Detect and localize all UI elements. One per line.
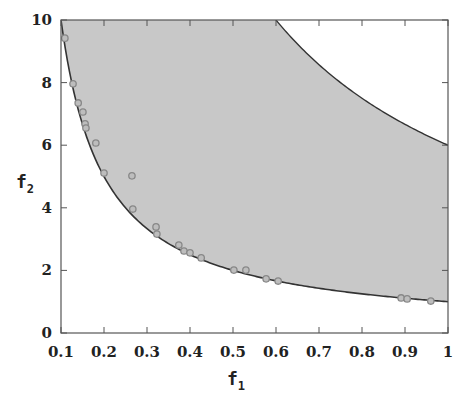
data-point bbox=[275, 278, 281, 284]
y-tick-label: 6 bbox=[42, 136, 52, 154]
x-tick-label: 0.9 bbox=[392, 343, 418, 361]
x-tick-label: 0.4 bbox=[177, 343, 203, 361]
data-point bbox=[75, 100, 81, 106]
x-tick-labels: 0.10.20.30.40.50.60.70.80.91 bbox=[48, 343, 453, 361]
plot-area bbox=[61, 20, 448, 304]
x-tick-label: 1 bbox=[443, 343, 453, 361]
data-point bbox=[176, 242, 182, 248]
data-point bbox=[398, 295, 404, 301]
pareto-chart: 0.10.20.30.40.50.60.70.80.91 0246810 f1 … bbox=[0, 0, 474, 412]
x-tick-label: 0.2 bbox=[91, 343, 117, 361]
y-tick-label: 0 bbox=[42, 324, 52, 342]
data-point bbox=[231, 267, 237, 273]
data-point bbox=[101, 170, 107, 176]
data-point bbox=[263, 276, 269, 282]
y-tick-label: 10 bbox=[31, 11, 52, 29]
data-point bbox=[198, 255, 204, 261]
y-tick-labels: 0246810 bbox=[31, 11, 52, 342]
y-tick-label: 8 bbox=[42, 74, 52, 92]
data-point bbox=[404, 296, 410, 302]
data-point bbox=[70, 81, 76, 87]
x-axis-label: f1 bbox=[227, 368, 245, 393]
data-point bbox=[130, 206, 136, 212]
data-point bbox=[243, 267, 249, 273]
x-tick-label: 0.8 bbox=[349, 343, 375, 361]
x-tick-label: 0.6 bbox=[263, 343, 289, 361]
data-point bbox=[129, 173, 135, 179]
x-tick-label: 0.3 bbox=[134, 343, 160, 361]
x-tick-label: 0.7 bbox=[306, 343, 332, 361]
data-point bbox=[62, 35, 68, 41]
y-tick-label: 4 bbox=[42, 199, 52, 217]
x-tick-label: 0.5 bbox=[220, 343, 246, 361]
data-point bbox=[153, 224, 159, 230]
data-point bbox=[83, 125, 89, 131]
y-tick-label: 2 bbox=[42, 261, 52, 279]
data-point bbox=[80, 109, 86, 115]
data-point bbox=[154, 231, 160, 237]
data-point bbox=[428, 298, 434, 304]
data-point bbox=[93, 140, 99, 146]
data-point bbox=[187, 250, 193, 256]
y-axis-label: f2 bbox=[16, 171, 34, 196]
feasible-region bbox=[61, 20, 448, 302]
x-tick-label: 0.1 bbox=[48, 343, 74, 361]
